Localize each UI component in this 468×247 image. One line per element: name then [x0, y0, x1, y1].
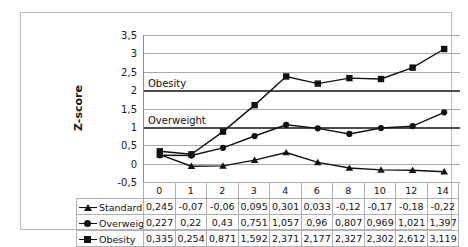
- table-column-header: 14: [427, 183, 459, 199]
- data-table: 0123468101214 Standard0,245-0,07-0,060,0…: [76, 182, 459, 247]
- table-cell: 0,033: [301, 199, 333, 215]
- table-cell: 1,057: [270, 215, 302, 231]
- data-point-marker: [346, 75, 352, 81]
- series-line-obesity: [160, 49, 444, 154]
- legend-item-obesity: Obesity: [77, 231, 144, 247]
- circle-marker-icon: [79, 219, 97, 228]
- data-point-marker: [188, 151, 194, 157]
- table-cell: 0,96: [301, 215, 333, 231]
- data-point-marker: [220, 145, 226, 151]
- table-cell: 0,43: [207, 215, 239, 231]
- legend-label: Obesity: [99, 234, 135, 245]
- table-cell: 3,119: [427, 231, 459, 247]
- table-column-header: 4: [270, 183, 302, 199]
- table-cell: -0,06: [207, 199, 239, 215]
- table-cell: -0,12: [333, 199, 365, 215]
- table-column-header: 10: [364, 183, 396, 199]
- legend-marker: [84, 220, 91, 227]
- legend-label: Overweight: [99, 218, 144, 229]
- series-lines: [144, 35, 460, 182]
- data-point-marker: [252, 133, 258, 139]
- series-line-standard: [160, 153, 444, 172]
- table-cell: 0,095: [238, 199, 270, 215]
- data-point-marker: [346, 131, 352, 137]
- table-cell: 2,371: [270, 231, 302, 247]
- table-cell: 0,969: [364, 215, 396, 231]
- y-tick-label: 1,5: [121, 103, 137, 114]
- data-point-marker: [283, 122, 289, 128]
- table-cell: -0,18: [396, 199, 428, 215]
- table-column-header: 2: [207, 183, 239, 199]
- data-point-marker: [251, 102, 257, 108]
- y-tick-label: 3: [131, 48, 137, 59]
- chart-frame: Z-score 3,532,521,510,50-0,5 ObesityOver…: [20, 12, 452, 230]
- table-cell: -0,07: [175, 199, 207, 215]
- table-corner-cell: [77, 183, 144, 199]
- data-point-marker: [441, 109, 447, 115]
- table-row: Standard0,245-0,07-0,060,0950,3010,033-0…: [77, 199, 459, 215]
- table-column-header: 1: [175, 183, 207, 199]
- legend-item-overweight: Overweight: [77, 215, 144, 231]
- table-body: Standard0,245-0,07-0,060,0950,3010,033-0…: [77, 199, 459, 247]
- table-cell: 1,592: [238, 231, 270, 247]
- square-marker-icon: [79, 235, 97, 244]
- table-cell: 2,177: [301, 231, 333, 247]
- table-cell: 0,254: [175, 231, 207, 247]
- table-header-row: 0123468101214: [77, 183, 459, 199]
- table-column-header: 12: [396, 183, 428, 199]
- table-column-header: 3: [238, 183, 270, 199]
- data-point-marker: [282, 149, 290, 155]
- table-column-header: 6: [301, 183, 333, 199]
- y-axis-title: Z-score: [72, 68, 90, 148]
- table-row: Obesity0,3350,2540,8711,5922,3712,1772,3…: [77, 231, 459, 247]
- y-axis-tick-labels: 3,532,521,510,50-0,5: [105, 29, 141, 182]
- data-point-marker: [220, 128, 226, 134]
- data-point-marker: [283, 73, 289, 79]
- series-line-overweight: [160, 112, 444, 155]
- legend-item-standard: Standard: [77, 199, 144, 215]
- table-cell: 0,807: [333, 215, 365, 231]
- data-point-marker: [378, 125, 384, 131]
- legend-marker: [84, 236, 91, 243]
- table-cell: 0,22: [175, 215, 207, 231]
- legend-marker: [84, 204, 92, 211]
- table-cell: 0,335: [144, 231, 176, 247]
- y-tick-label: 1: [131, 121, 137, 132]
- table-cell: 0,227: [144, 215, 176, 231]
- legend-label: Standard: [99, 202, 142, 213]
- data-point-marker: [409, 64, 415, 70]
- table-cell: 0,245: [144, 199, 176, 215]
- y-tick-label: 2,5: [121, 66, 137, 77]
- table-cell: 0,871: [207, 231, 239, 247]
- table-cell: 1,397: [427, 215, 459, 231]
- triangle-marker-icon: [79, 203, 97, 212]
- table-cell: -0,22: [427, 199, 459, 215]
- y-tick-label: 0,5: [121, 140, 137, 151]
- table-cell: 2,302: [364, 231, 396, 247]
- table-row: Overweight0,2270,220,430,7511,0570,960,8…: [77, 215, 459, 231]
- data-point-marker: [315, 125, 321, 131]
- plot-area: ObesityOverweight: [143, 35, 460, 182]
- table-cell: 0,301: [270, 199, 302, 215]
- data-point-marker: [378, 76, 384, 82]
- y-tick-label: 2: [131, 85, 137, 96]
- table-cell: 0,751: [238, 215, 270, 231]
- table-cell: -0,17: [364, 199, 396, 215]
- table-column-header: 0: [144, 183, 176, 199]
- table-cell: 1,021: [396, 215, 428, 231]
- table-column-header: 8: [333, 183, 365, 199]
- table-cell: 2,327: [333, 231, 365, 247]
- table-cell: 2,612: [396, 231, 428, 247]
- y-tick-label: 3,5: [121, 30, 137, 41]
- data-point-marker: [410, 123, 416, 129]
- y-tick-label: 0: [131, 158, 137, 169]
- data-point-marker: [315, 80, 321, 86]
- data-point-marker: [157, 148, 163, 154]
- table-row: 0123468101214: [77, 183, 459, 199]
- data-point-marker: [441, 46, 447, 52]
